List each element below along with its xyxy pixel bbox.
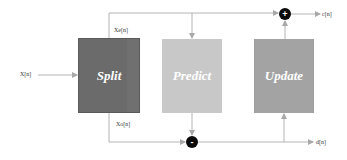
split-block-label: Split xyxy=(97,68,122,84)
split-block: Split xyxy=(78,38,140,113)
update-block: Update xyxy=(254,39,314,113)
detail-output-label: d[n] xyxy=(316,139,326,145)
update-block-label: Update xyxy=(265,68,303,84)
plus-operator: + xyxy=(279,8,291,20)
minus-operator: - xyxy=(186,136,198,148)
plus-icon: + xyxy=(282,10,287,19)
predict-block-label: Predict xyxy=(173,68,211,84)
input-label: X[n] xyxy=(20,71,31,77)
even-signal-label: Xe[n] xyxy=(114,27,128,33)
lifting-scheme-diagram: X[n] Xe[n] Xo[n] Split Predict Update + … xyxy=(0,0,347,160)
approx-output-label: c[n] xyxy=(322,11,332,17)
odd-signal-label: Xo[n] xyxy=(116,121,130,127)
minus-icon: - xyxy=(191,138,194,147)
odd-path-to-minus xyxy=(109,113,185,142)
predict-block: Predict xyxy=(162,39,222,113)
even-path-to-plus xyxy=(109,13,278,38)
